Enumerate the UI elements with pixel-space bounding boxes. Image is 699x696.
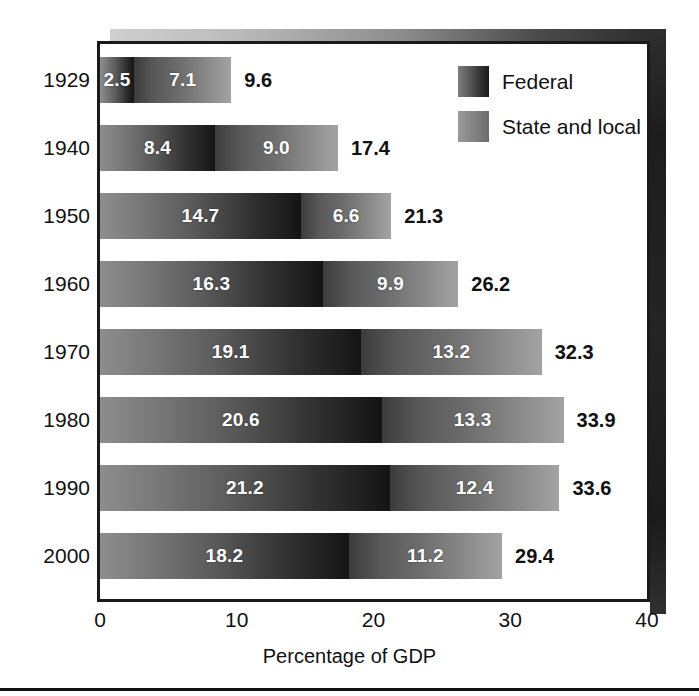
bar-total-label: 21.3 xyxy=(391,193,443,239)
bar-total-label: 17.4 xyxy=(338,125,390,171)
bar-segment-value-state-and-local: 12.4 xyxy=(456,477,494,499)
bar-segment-federal: 19.1 xyxy=(100,329,361,375)
bar-segment-value-state-and-local: 6.6 xyxy=(333,205,360,227)
y-axis-label: 1960 xyxy=(26,261,90,307)
bar-row: 16.39.926.2 xyxy=(100,261,647,307)
bar-segment-federal: 20.6 xyxy=(100,397,382,443)
bar-segment-state-and-local: 7.1 xyxy=(134,57,231,103)
bar-total-label: 29.4 xyxy=(502,533,554,579)
x-axis-title: Percentage of GDP xyxy=(0,645,699,668)
bar-total-label: 33.6 xyxy=(559,465,611,511)
bar-segment-state-and-local: 6.6 xyxy=(301,193,391,239)
bar-segment-value-state-and-local: 13.2 xyxy=(433,341,471,363)
bar-segment-value-state-and-local: 9.0 xyxy=(263,137,290,159)
bar-segment-value-federal: 20.6 xyxy=(222,409,260,431)
bar-segment-value-federal: 16.3 xyxy=(193,273,231,295)
bar-segment-value-federal: 19.1 xyxy=(212,341,250,363)
x-axis-tick-label: 20 xyxy=(344,608,404,632)
frame-shadow-right xyxy=(650,29,666,614)
bar-total-label: 26.2 xyxy=(458,261,510,307)
bar-total-label: 33.9 xyxy=(564,397,616,443)
bar-segment-value-state-and-local: 11.2 xyxy=(407,545,444,567)
x-axis-tick-label: 10 xyxy=(207,608,267,632)
footer-divider xyxy=(0,688,699,691)
bar-segment-state-and-local: 9.0 xyxy=(215,125,338,171)
y-axis-label: 1980 xyxy=(26,397,90,443)
bar-row: 19.113.232.3 xyxy=(100,329,647,375)
bar-row: 18.211.229.4 xyxy=(100,533,647,579)
x-axis-tick-label: 40 xyxy=(617,608,677,632)
bar-segment-state-and-local: 9.9 xyxy=(323,261,458,307)
y-axis-label: 1950 xyxy=(26,193,90,239)
bar-segment-value-state-and-local: 13.3 xyxy=(454,409,492,431)
y-axis-label: 2000 xyxy=(26,533,90,579)
legend-label-federal: Federal xyxy=(502,70,573,94)
bar-row: 20.613.333.9 xyxy=(100,397,647,443)
x-axis-tick-label: 30 xyxy=(480,608,540,632)
bar-segment-state-and-local: 13.3 xyxy=(382,397,564,443)
legend-swatch-state-and-local-icon xyxy=(458,111,489,142)
y-axis-label: 1940 xyxy=(26,125,90,171)
bar-segment-federal: 8.4 xyxy=(100,125,215,171)
bar-segment-value-state-and-local: 9.9 xyxy=(377,273,404,295)
chart-legend: Federal State and local xyxy=(458,66,641,156)
x-axis-tick-label: 0 xyxy=(70,608,130,632)
y-axis-label: 1970 xyxy=(26,329,90,375)
bar-row: 21.212.433.6 xyxy=(100,465,647,511)
bar-segment-value-state-and-local: 7.1 xyxy=(169,69,196,91)
bar-row: 14.76.621.3 xyxy=(100,193,647,239)
bar-segment-federal: 21.2 xyxy=(100,465,390,511)
bar-segment-federal: 2.5 xyxy=(100,57,134,103)
bar-segment-state-and-local: 12.4 xyxy=(390,465,560,511)
bar-total-label: 9.6 xyxy=(231,57,272,103)
bar-segment-value-federal: 14.7 xyxy=(182,205,220,227)
legend-label-state-and-local: State and local xyxy=(502,115,641,139)
chart-figure: 19291940195019601970198019902000 2.57.19… xyxy=(0,0,699,696)
y-axis-label: 1990 xyxy=(26,465,90,511)
bar-segment-state-and-local: 13.2 xyxy=(361,329,542,375)
bar-segment-state-and-local: 11.2 xyxy=(349,533,502,579)
legend-swatch-federal-icon xyxy=(458,66,489,97)
bar-segment-federal: 14.7 xyxy=(100,193,301,239)
bar-segment-value-federal: 8.4 xyxy=(144,137,171,159)
y-axis-label: 1929 xyxy=(26,57,90,103)
bar-segment-federal: 16.3 xyxy=(100,261,323,307)
bar-segment-value-federal: 18.2 xyxy=(206,545,244,567)
bar-total-label: 32.3 xyxy=(542,329,594,375)
bar-segment-federal: 18.2 xyxy=(100,533,349,579)
legend-item-state-and-local: State and local xyxy=(458,111,641,142)
bar-segment-value-federal: 21.2 xyxy=(226,477,264,499)
legend-item-federal: Federal xyxy=(458,66,641,97)
bar-segment-value-federal: 2.5 xyxy=(104,69,131,91)
